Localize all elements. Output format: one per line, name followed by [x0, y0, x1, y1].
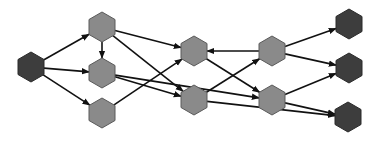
edge-f-to-t1 — [285, 29, 336, 47]
hexagon-node-src — [18, 52, 44, 82]
directed-graph-diagram — [0, 0, 381, 141]
hexagon-node-g — [259, 85, 285, 115]
hexagon-node-a — [89, 12, 115, 42]
hexagon-node-d — [181, 36, 207, 66]
hexagon-node-t2 — [336, 53, 362, 83]
edge-src-to-c — [43, 75, 90, 105]
edge-src-to-b — [44, 68, 89, 72]
hexagon-node-b — [89, 58, 115, 88]
hexagon-node-c — [89, 98, 115, 128]
hexagon-node-t1 — [336, 9, 362, 39]
edge-src-to-a — [44, 34, 89, 59]
hexagon-node-f — [259, 36, 285, 66]
edge-f-to-t2 — [285, 54, 336, 65]
edge-g-to-t2 — [285, 73, 336, 94]
hexagon-node-t3 — [335, 102, 361, 132]
